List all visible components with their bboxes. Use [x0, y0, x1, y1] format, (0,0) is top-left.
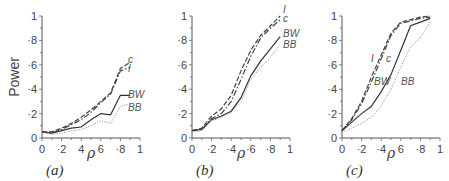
y-tick-label: ·4	[27, 83, 37, 95]
series-label: c	[386, 53, 391, 64]
y-tick-label: 0	[31, 132, 37, 144]
y-tick-label: ·6	[177, 59, 187, 71]
panel-c: 0·2·4·6·810·2·46·81ρ(c)IcBWBB	[327, 10, 443, 179]
x-tick-label: 6	[98, 143, 104, 155]
x-tick-label: 1	[287, 143, 293, 155]
y-tick-label: 1	[31, 10, 37, 22]
x-tick-label: ·2	[357, 143, 367, 155]
x-tick-label: ·8	[116, 143, 126, 155]
y-tick-label: 0	[181, 132, 187, 144]
y-tick-label: ·2	[327, 108, 337, 120]
panel-a: 0·2·4·6·810·246·81ρ(a)cIBWBB	[27, 10, 145, 179]
series-label: I	[371, 53, 374, 64]
series-label: c	[283, 13, 288, 24]
series-label: BB	[128, 102, 142, 113]
x-tick-label: ·6	[246, 143, 256, 155]
y-axis-title: Power	[6, 57, 22, 97]
x-tick-label: ·4	[226, 143, 236, 155]
y-tick-label: ·8	[327, 34, 337, 46]
x-axis-label: ρ	[386, 145, 396, 161]
y-tick-label: ·8	[27, 34, 37, 46]
series-label: BW	[128, 89, 146, 100]
x-tick-label: 0	[189, 143, 195, 155]
y-tick-label: ·8	[177, 34, 187, 46]
x-tick-label: 4	[78, 143, 84, 155]
y-tick-label: 0	[331, 132, 337, 144]
series-i	[192, 16, 280, 131]
series-i	[342, 16, 430, 131]
series-bw	[342, 18, 430, 130]
x-tick-label: 0	[39, 143, 45, 155]
x-axis-label: ρ	[86, 145, 96, 161]
series-label: BW	[283, 28, 301, 39]
y-tick-label: ·2	[27, 108, 37, 120]
x-tick-label: 1	[137, 143, 143, 155]
series-label: BW	[374, 76, 392, 87]
x-tick-label: ·8	[416, 143, 426, 155]
series-label: BB	[401, 76, 415, 87]
x-tick-label: ·4	[376, 143, 386, 155]
panel-b: 0·2·4·6·810·2·4·6·81ρ(b)IcBWBB	[177, 4, 300, 179]
panel-label: (c)	[346, 162, 363, 179]
figure: 0·2·4·6·810·246·81ρ(a)cIBWBB0·2·4·6·810·…	[0, 0, 449, 181]
x-tick-label: 1	[437, 143, 443, 155]
y-tick-label: 1	[331, 10, 337, 22]
series-c	[192, 20, 280, 131]
y-tick-label: ·2	[177, 108, 187, 120]
panel-label: (b)	[196, 162, 214, 179]
x-tick-label: ·8	[266, 143, 276, 155]
x-tick-label: 0	[339, 143, 345, 155]
series-bb	[192, 44, 280, 132]
y-tick-label: ·6	[27, 59, 37, 71]
x-axis-label: ρ	[236, 145, 246, 161]
x-tick-label: ·2	[57, 143, 67, 155]
y-tick-label: ·4	[327, 83, 337, 95]
y-tick-label: 1	[181, 10, 187, 22]
series-label: BB	[283, 39, 297, 50]
x-tick-label: 6	[398, 143, 404, 155]
series-label: I	[128, 63, 131, 74]
x-tick-label: ·2	[207, 143, 217, 155]
series-c	[42, 62, 130, 131]
series-bb	[42, 104, 130, 135]
panel-label: (a)	[46, 162, 64, 179]
y-tick-label: ·6	[327, 59, 337, 71]
y-tick-label: ·4	[177, 83, 187, 95]
